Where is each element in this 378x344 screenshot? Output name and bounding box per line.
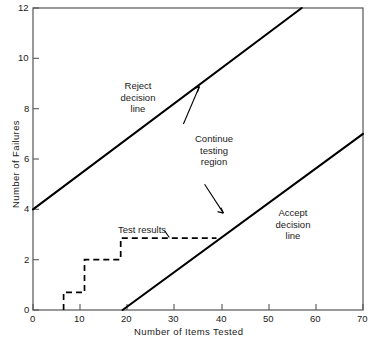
continue-label-line-2: testing <box>181 145 247 157</box>
test-results-label: Test results <box>118 224 166 236</box>
reject-label-line-3: line <box>107 103 169 115</box>
continue-label-line-1: Continue <box>181 133 247 145</box>
accept-label-line-2: decision <box>262 219 324 231</box>
reject-label-line-1: Reject <box>107 80 169 92</box>
plot-canvas <box>0 0 378 344</box>
x-tick-label-20: 20 <box>121 313 132 324</box>
accept-label-line-1: Accept <box>262 207 324 219</box>
y-tick-label-8: 8 <box>24 103 29 114</box>
y-tick-label-0: 0 <box>24 304 29 315</box>
x-tick-label-10: 10 <box>74 313 85 324</box>
test-results-step-line <box>64 238 217 310</box>
y-tick-label-10: 10 <box>18 52 29 63</box>
accept-label-line-3: line <box>262 230 324 242</box>
chart-figure: 0 10 20 30 40 50 60 70 0 2 4 6 8 10 12 N… <box>0 0 378 344</box>
x-tick-label-50: 50 <box>263 313 274 324</box>
x-tick-label-60: 60 <box>310 313 321 324</box>
y-axis-title: Number of Failures <box>10 120 21 208</box>
reject-label-line-2: decision <box>107 92 169 104</box>
continue-label-line-3: region <box>181 156 247 168</box>
x-tick-label-0: 0 <box>30 313 35 324</box>
accept-decision-line-label: Accept decision line <box>262 207 324 242</box>
y-tick-label-12: 12 <box>18 2 29 13</box>
y-tick-label-6: 6 <box>24 153 29 164</box>
y-tick-label-4: 4 <box>24 203 29 214</box>
continue-testing-region-label: Continue testing region <box>181 133 247 168</box>
x-tick-label-40: 40 <box>216 313 227 324</box>
y-tick-label-2: 2 <box>24 254 29 265</box>
x-axis-title: Number of Items Tested <box>134 326 243 337</box>
x-axis-ticks <box>33 304 363 310</box>
reject-decision-line-label: Reject decision line <box>107 80 169 115</box>
continue-to-accept-leader-icon <box>205 184 224 213</box>
x-tick-label-30: 30 <box>168 313 179 324</box>
continue-to-reject-leader-icon <box>183 87 199 125</box>
y-axis-ticks <box>33 8 39 310</box>
x-tick-label-70: 70 <box>357 313 368 324</box>
